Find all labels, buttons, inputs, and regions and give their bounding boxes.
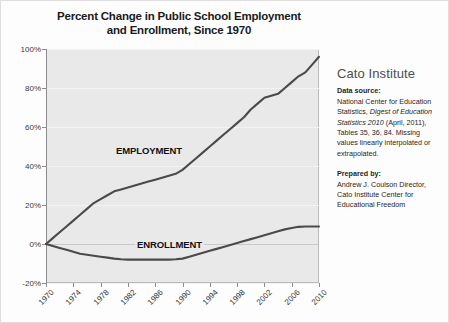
x-axis-tick-mark bbox=[319, 283, 320, 287]
y-axis-tick-label: -20% bbox=[22, 279, 41, 288]
x-axis-tick-label: 1990 bbox=[173, 288, 192, 307]
prepared-by-block: Prepared by:Andrew J. Coulson Director, … bbox=[337, 169, 441, 211]
x-axis-tick-label: 1986 bbox=[146, 288, 165, 307]
x-axis-tick-label: 2002 bbox=[255, 288, 274, 307]
chart-title-line-1: Percent Change in Public School Employme… bbox=[29, 9, 329, 23]
x-axis-tick-mark bbox=[264, 283, 265, 287]
x-axis-tick-mark bbox=[183, 283, 184, 287]
y-axis-tick-label: 60% bbox=[25, 123, 41, 132]
x-axis-tick-mark bbox=[155, 283, 156, 287]
x-axis-tick-label: 1982 bbox=[119, 288, 138, 307]
x-axis-tick-label: 1998 bbox=[228, 288, 247, 307]
side-panel: Cato Institute Data source:National Cent… bbox=[337, 69, 441, 211]
organization-name: Cato Institute bbox=[337, 69, 441, 79]
x-axis-tick-label: 2006 bbox=[283, 288, 302, 307]
prepared-by-text: Andrew J. Coulson Director, Cato Institu… bbox=[337, 180, 426, 210]
y-axis-tick-label: 40% bbox=[25, 162, 41, 171]
x-axis-tick-label: 1994 bbox=[201, 288, 220, 307]
y-axis-tick-label: 0% bbox=[29, 240, 41, 249]
y-axis-tick-label: 100% bbox=[21, 45, 41, 54]
data-source-heading: Data source: bbox=[337, 86, 441, 96]
x-axis-tick-mark bbox=[101, 283, 102, 287]
y-axis-tick-label: 20% bbox=[25, 201, 41, 210]
x-axis-tick-mark bbox=[237, 283, 238, 287]
x-axis-tick-label: 1974 bbox=[64, 288, 83, 307]
chart-figure: Percent Change in Public School Employme… bbox=[0, 0, 449, 323]
plot-area: 100%80%60%40%20%0%-20% 19701974197819821… bbox=[46, 49, 319, 283]
y-axis-tick-label: 80% bbox=[25, 84, 41, 93]
x-axis-tick-mark bbox=[128, 283, 129, 287]
series-label-enrollment: ENROLLMENT bbox=[135, 239, 204, 250]
data-source-block: Data source:National Center for Educatio… bbox=[337, 86, 441, 159]
x-axis-tick-label: 1970 bbox=[37, 288, 56, 307]
x-axis-tick-label: 2010 bbox=[310, 288, 329, 307]
series-label-employment: EMPLOYMENT bbox=[114, 145, 184, 156]
x-axis-tick-mark bbox=[46, 283, 47, 287]
x-axis-tick-mark bbox=[210, 283, 211, 287]
chart-title: Percent Change in Public School Employme… bbox=[29, 9, 329, 37]
x-axis-tick-mark bbox=[292, 283, 293, 287]
chart-title-line-2: and Enrollment, Since 1970 bbox=[29, 23, 329, 37]
x-axis-tick-mark bbox=[73, 283, 74, 287]
x-axis-tick-label: 1978 bbox=[91, 288, 110, 307]
prepared-by-heading: Prepared by: bbox=[337, 169, 441, 179]
